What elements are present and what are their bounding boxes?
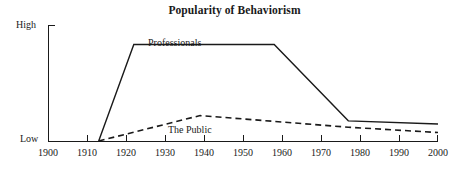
x-tick-label: 1940: [184, 147, 224, 158]
x-tick-label: 1910: [67, 147, 107, 158]
x-tick-label: 1900: [28, 147, 68, 158]
x-tick-label: 1930: [145, 147, 185, 158]
x-tick-label: 1990: [379, 147, 419, 158]
x-tick-label: 1970: [301, 147, 341, 158]
x-tick-label: 1920: [106, 147, 146, 158]
chart-figure: Popularity of Behaviorism High Low Profe…: [0, 0, 469, 170]
axes-group: [48, 25, 438, 142]
x-tick-label: 1980: [340, 147, 380, 158]
x-tick-label: 2000: [418, 147, 458, 158]
x-tick-label: 1950: [223, 147, 263, 158]
chart-plot-area: [0, 0, 469, 170]
series-line-professionals: [99, 45, 438, 141]
x-axis-ticks: [88, 135, 400, 142]
series-line-the-public: [99, 116, 438, 141]
x-tick-label: 1960: [262, 147, 302, 158]
series-group: [99, 45, 438, 141]
